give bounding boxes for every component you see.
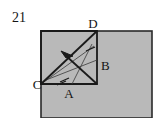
vertex-label-A: A xyxy=(64,86,74,101)
vertex-label-B: B xyxy=(101,58,110,73)
vertex-label-D: D xyxy=(88,16,97,31)
problem-number: 21 xyxy=(12,10,26,25)
geometry-diagram: 21 D B C A xyxy=(0,0,162,118)
figure-container: 21 D B C A xyxy=(0,0,162,118)
vertex-label-C: C xyxy=(33,77,42,92)
